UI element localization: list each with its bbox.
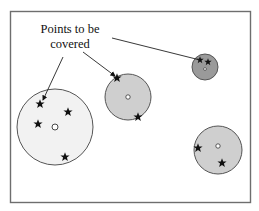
annotation-label-line1: Points to be — [40, 22, 99, 36]
center-marker-icon — [52, 124, 58, 130]
coverage-circle-bottom-right — [194, 126, 242, 174]
coverage-circle-small-top-right — [192, 54, 218, 80]
center-marker-icon — [204, 68, 207, 71]
covering-diagram: Points to be covered — [0, 0, 259, 211]
center-marker-icon — [216, 144, 220, 148]
annotation-label-line2: covered — [50, 37, 90, 51]
center-marker-icon — [126, 95, 130, 99]
